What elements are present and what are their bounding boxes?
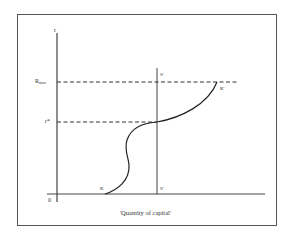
- x-axis-caption: 'Quantity of capital': [0, 209, 291, 216]
- s-top-label: S': [160, 72, 164, 77]
- k-top-label: K': [220, 86, 225, 91]
- capital-curve-kk: [105, 82, 217, 194]
- rstar-label: r*: [45, 118, 50, 124]
- rmax-label: Rmax: [35, 78, 46, 85]
- origin-label: 0: [48, 197, 51, 203]
- rmax-label-sub: max: [39, 80, 46, 85]
- s-bottom-label: S': [160, 186, 164, 191]
- y-axis-label: r: [54, 27, 56, 33]
- k-bottom-label: K: [100, 186, 104, 191]
- diagram-canvas: [0, 0, 291, 236]
